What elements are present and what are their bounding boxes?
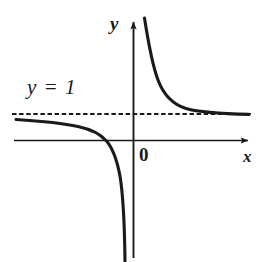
- function-graph-figure: y x 0 y = 1: [0, 0, 265, 262]
- asymptote-label: y = 1: [27, 77, 77, 98]
- x-axis-label: x: [243, 148, 252, 165]
- graph-canvas: [0, 0, 265, 262]
- origin-label: 0: [139, 145, 149, 164]
- curve-right-branch: [145, 18, 250, 114]
- y-axis-label: y: [110, 14, 118, 33]
